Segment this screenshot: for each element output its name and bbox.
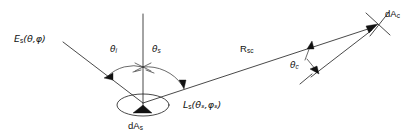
collection-cone-edge-tail [300, 74, 312, 84]
theta-collection-arrowhead-lower [310, 66, 319, 74]
theta-collection-label: θc [290, 61, 299, 71]
source-area-label: dAs [128, 121, 143, 132]
theta-scatter-label: θs [152, 45, 161, 55]
source-area-base: dA [128, 120, 140, 131]
distance-base: R [240, 43, 247, 54]
incident-ray-line [63, 42, 143, 103]
diagram-vector-layer [0, 0, 414, 140]
source-area-normal-marker [133, 105, 152, 113]
theta-incident-subscript: i [116, 47, 117, 54]
collection-cone-lower-edge [311, 30, 372, 77]
scattered-radiance-args: (θₛ,φₛ) [192, 99, 222, 110]
theta-scatter-subscript: s [158, 47, 161, 54]
incident-irradiance-args: (θ,φ) [23, 33, 46, 44]
collector-area-label: dAc [385, 9, 400, 20]
theta-scatter-arc-arrowhead [179, 80, 186, 89]
collector-area-base: dA [385, 8, 397, 19]
distance-label: Rsc [240, 44, 253, 55]
scattered-radiance-label: Ls(θₛ,φₛ) [183, 100, 221, 111]
diagram-canvas: Es(θ,φ) θi θs Ls(θₛ,φₛ) dAs Rsc θc dAc [0, 0, 414, 140]
incident-irradiance-label: Es(θ,φ) [14, 34, 46, 45]
collector-area-subscript: c [397, 12, 400, 19]
distance-subscript: sc [247, 47, 254, 54]
theta-scatter-arc [143, 67, 182, 85]
theta-incident-label: θi [110, 45, 117, 55]
theta-collection-subscript: c [296, 63, 299, 70]
source-area-subscript: s [140, 124, 143, 131]
theta-collection-arrowhead-upper [307, 41, 314, 49]
scattered-ray-line [143, 27, 374, 103]
